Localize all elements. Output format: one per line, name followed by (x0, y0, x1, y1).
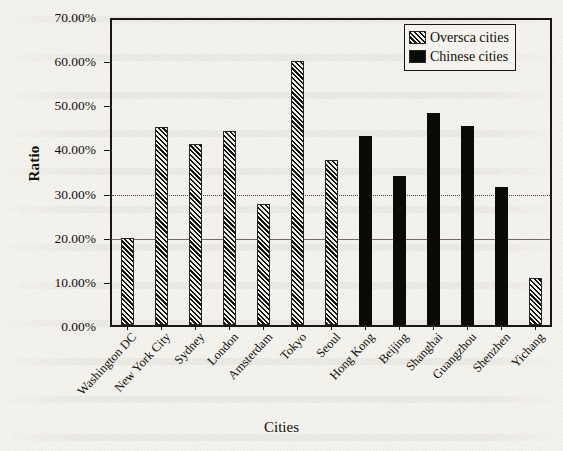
bar (155, 127, 168, 325)
bar (291, 61, 304, 325)
bar (529, 278, 542, 325)
x-axis-tick-labels: Washington DCNew York CitySydneyLondonAm… (110, 330, 552, 425)
bar (189, 144, 202, 325)
bar (257, 204, 270, 325)
chart-legend: Oversca cities Chinese cities (404, 24, 516, 71)
bar (359, 136, 372, 325)
bar (223, 131, 236, 325)
bar (495, 187, 508, 325)
x-axis-title: Cities (0, 419, 563, 436)
bar-chart: Ratio 0.00%10.00%20.00%30.00%40.00%50.00… (0, 0, 563, 451)
legend-label-chinese: Chinese cities (430, 50, 508, 64)
bar (461, 126, 474, 325)
bar (121, 238, 134, 325)
bar (325, 160, 338, 325)
legend-entry-chinese: Chinese cities (409, 47, 509, 66)
legend-label-overseas: Oversca cities (430, 31, 509, 45)
bar (427, 113, 440, 325)
legend-entry-overseas: Oversca cities (409, 28, 509, 47)
legend-swatch-chinese-icon (409, 50, 426, 63)
bar (393, 176, 406, 325)
legend-swatch-overseas-icon (409, 31, 426, 44)
